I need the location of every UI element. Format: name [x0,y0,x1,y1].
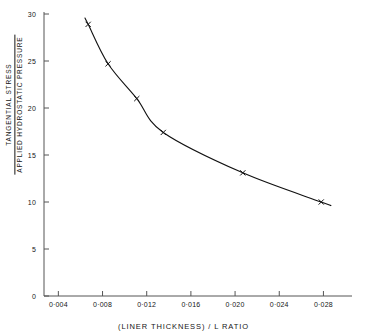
plot-area [0,0,367,335]
x-tick-label: 0·004 [49,301,68,308]
data-point-marker [161,130,166,135]
x-tick-label: 0·024 [270,301,289,308]
data-point-marker [240,170,245,175]
x-tick-label: 0·028 [314,301,333,308]
x-axis-title: (LINER THICKNESS) / L RATIO [0,322,367,331]
x-tick-label: 0·020 [226,301,245,308]
data-point-marker [86,22,91,27]
data-point-marker [105,61,110,66]
data-curve [85,18,331,206]
y-tick-label: 5 [14,246,36,253]
y-tick-label: 0 [14,293,36,300]
y-tick-label: 30 [14,11,36,18]
data-point-markers [86,22,324,205]
y-axis-title-denominator: APPLIED HYDROSTATIC PRESSURE [16,35,25,175]
chart-figure: 051015202530 0·0040·0080·0120·0160·0200·… [0,0,367,335]
y-axis-title-numerator: TANGENTIAL STRESS [5,35,15,175]
x-tick-label: 0·012 [137,301,156,308]
y-axis-title: TANGENTIAL STRESS APPLIED HYDROSTATIC PR… [5,35,24,175]
axes [44,12,352,296]
tick-marks [44,14,323,296]
y-tick-label: 10 [14,199,36,206]
data-point-marker [319,199,324,204]
x-tick-label: 0·016 [181,301,200,308]
data-point-marker [134,96,139,101]
x-tick-label: 0·008 [93,301,112,308]
